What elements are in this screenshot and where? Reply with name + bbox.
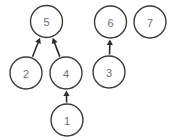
- node-1[interactable]: 1: [51, 104, 83, 136]
- node-3[interactable]: 3: [93, 56, 125, 88]
- node-5[interactable]: 5: [31, 6, 63, 38]
- node-label-5: 5: [43, 16, 49, 28]
- graph-canvas: 5672431: [0, 0, 173, 140]
- arrowhead-1-to-4: [63, 91, 69, 97]
- edge-2-to-5: [32, 38, 40, 57]
- nodes-layer: 5672431: [10, 6, 166, 137]
- node-label-7: 7: [147, 17, 153, 29]
- node-2[interactable]: 2: [10, 57, 42, 89]
- edge-3-to-6: [107, 39, 113, 54]
- node-label-2: 2: [23, 68, 29, 80]
- node-label-1: 1: [64, 115, 70, 127]
- edge-1-to-4: [63, 91, 69, 103]
- edge-4-to-5: [52, 38, 60, 57]
- node-label-3: 3: [106, 67, 112, 79]
- node-7[interactable]: 7: [134, 6, 166, 38]
- node-label-6: 6: [107, 17, 113, 29]
- node-6[interactable]: 6: [95, 6, 127, 38]
- arrowhead-3-to-6: [107, 39, 113, 45]
- node-label-4: 4: [63, 68, 69, 80]
- graph-diagram: 5672431: [0, 0, 173, 140]
- node-4[interactable]: 4: [50, 57, 82, 89]
